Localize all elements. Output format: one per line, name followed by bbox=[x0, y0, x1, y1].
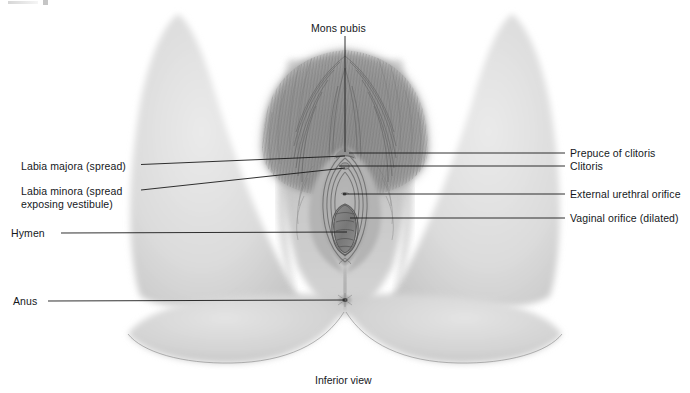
label-anus: Anus bbox=[13, 295, 37, 308]
label-labia-majora: Labia majora (spread) bbox=[21, 160, 126, 173]
label-external-urethral-orifice: External urethral orifice bbox=[570, 188, 681, 201]
scan-artifact-block bbox=[43, 0, 48, 5]
label-labia-minora-line2: exposing vestibule) bbox=[21, 198, 113, 210]
label-hymen: Hymen bbox=[11, 227, 45, 240]
label-mons-pubis: Mons pubis bbox=[311, 22, 366, 35]
label-labia-minora-line1: Labia minora (spread bbox=[21, 185, 122, 197]
label-prepuce-of-clitoris: Prepuce of clitoris bbox=[570, 147, 655, 160]
scan-artifact-strip bbox=[8, 1, 38, 4]
label-labia-minora: Labia minora (spreadexposing vestibule) bbox=[21, 185, 122, 210]
label-vaginal-orifice: Vaginal orifice (dilated) bbox=[570, 212, 679, 225]
label-clitoris: Clitoris bbox=[570, 160, 603, 173]
figure-caption: Inferior view bbox=[315, 374, 372, 386]
